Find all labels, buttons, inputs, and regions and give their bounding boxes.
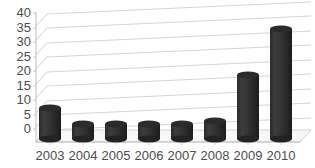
bar-2005 <box>105 121 127 143</box>
gridline-35 <box>47 16 311 28</box>
x-tick-label: 2009 <box>234 148 263 163</box>
bar-2004 <box>72 121 94 143</box>
y-tick-label: 15 <box>17 78 31 93</box>
bar-2010 <box>270 26 292 143</box>
bar-2009 <box>237 72 259 143</box>
x-tick-label: 2004 <box>69 148 98 163</box>
x-tick-label: 2007 <box>168 148 197 163</box>
y-axis-ticks: 40 35 30 25 20 15 10 5 0 <box>17 5 31 136</box>
bar-2003 <box>39 105 61 143</box>
y-tick-label: 10 <box>17 92 31 107</box>
bar-chart: 40 35 30 25 20 15 10 5 0 <box>0 0 315 168</box>
y-tick-label: 35 <box>17 20 31 35</box>
x-tick-label: 2003 <box>36 148 65 163</box>
y-tick-label: 5 <box>24 107 31 122</box>
y-tick-label: 40 <box>17 5 31 20</box>
bar-2006 <box>138 121 160 143</box>
x-axis-ticks: 2003 2004 2005 2006 2007 2008 2009 2010 <box>36 148 296 163</box>
x-tick-label: 2005 <box>102 148 131 163</box>
y-tick-label: 30 <box>17 34 31 49</box>
x-tick-label: 2010 <box>267 148 296 163</box>
y-tick-label: 20 <box>17 63 31 78</box>
x-tick-label: 2006 <box>135 148 164 163</box>
y-tick-label: 25 <box>17 49 31 64</box>
x-tick-label: 2008 <box>201 148 230 163</box>
chart-canvas: 40 35 30 25 20 15 10 5 0 <box>0 0 315 168</box>
gridline-40 <box>47 2 311 14</box>
bar-2007 <box>171 121 193 143</box>
bar-2008 <box>204 118 226 143</box>
y-tick-label: 0 <box>24 121 31 136</box>
